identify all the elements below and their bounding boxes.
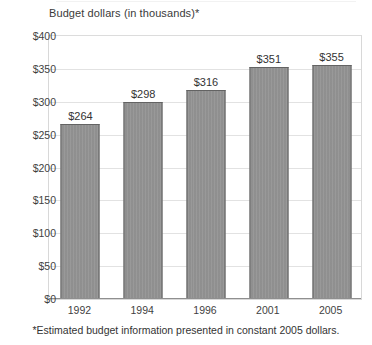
y-axis-tick-label: $350 [12,63,56,75]
x-axis-baseline [49,298,361,299]
chart-footnote: *Estimated budget information presented … [0,324,372,336]
bar: $298 [124,102,163,298]
x-axis-tick-label: 2001 [236,304,299,316]
y-axis-tick-label: $100 [12,227,56,239]
bar-value-label: $316 [194,76,218,88]
x-axis-tick-label: 2005 [299,304,362,316]
bar-slot: $351 [237,36,300,298]
y-axis-tick-label: $250 [12,129,56,141]
plot-area: $264$298$316$351$355 [48,35,362,300]
x-axis-tick-label: 1992 [48,304,111,316]
bar-value-label: $298 [131,88,155,100]
chart-title: Budget dollars (in thousands)* [49,7,199,19]
bar: $355 [312,65,351,298]
y-axis-tick-label: $200 [12,162,56,174]
x-axis-tick-label: 1996 [174,304,237,316]
bar-chart-figure: Budget dollars (in thousands)* $264$298$… [0,0,372,345]
bar-value-label: $264 [68,110,92,122]
y-axis-tick-label: $150 [12,194,56,206]
bar-slot: $298 [112,36,175,298]
bar: $351 [249,67,288,298]
bars-layer: $264$298$316$351$355 [49,36,361,299]
bar-slot: $355 [300,36,363,298]
bar: $316 [186,90,225,298]
bar-value-label: $351 [257,53,281,65]
bar-slot: $316 [175,36,238,298]
bar: $264 [61,124,100,298]
x-axis-labels: 19921994199620012005 [48,304,362,320]
x-axis-tick-label: 1994 [111,304,174,316]
y-axis-tick-label: $0 [12,293,56,305]
y-axis-tick-label: $50 [12,260,56,272]
y-axis-tick-label: $400 [12,30,56,42]
bar-slot: $264 [49,36,112,298]
y-axis-tick-label: $300 [12,96,56,108]
scan-artifact-line [56,1,356,2]
bar-value-label: $355 [319,51,343,63]
